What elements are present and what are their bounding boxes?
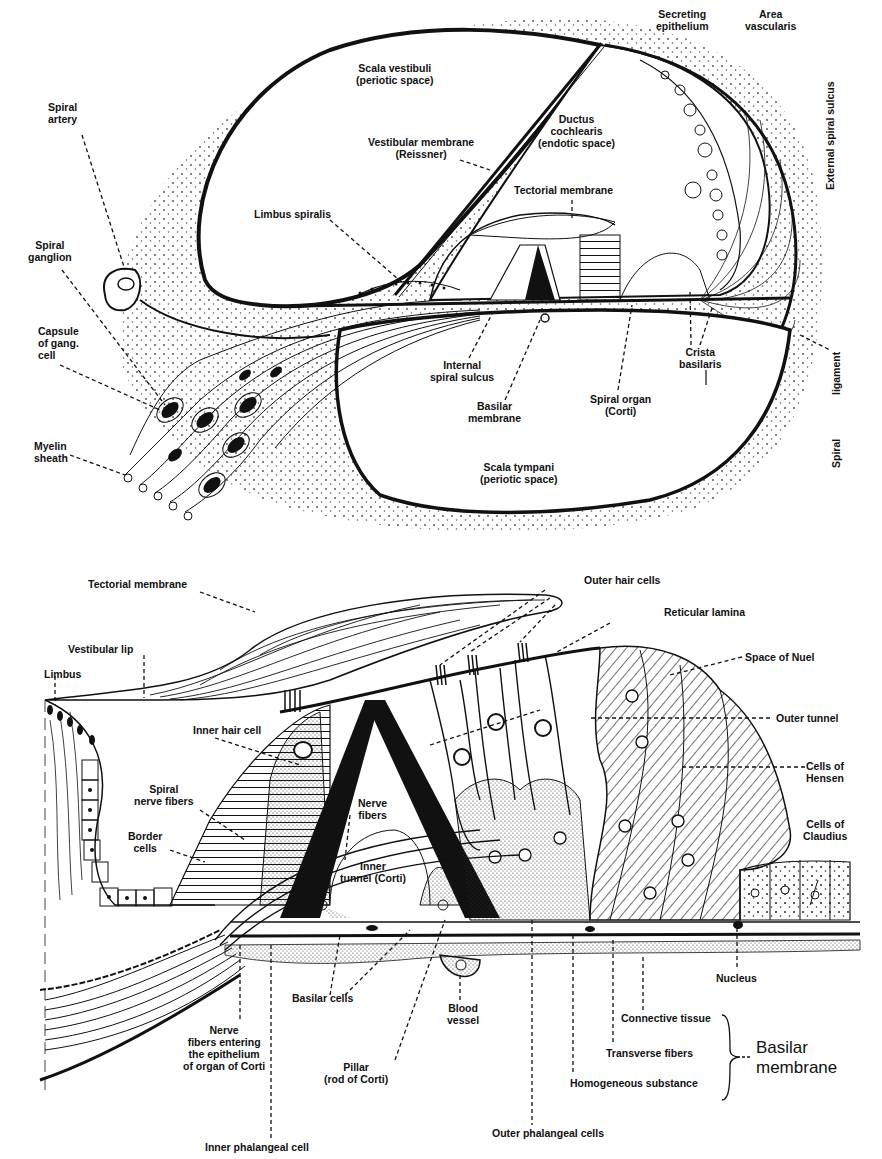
label-limbus-spiralis: Limbus spiralis (254, 208, 331, 220)
label-cells-of-hensen: Cells of Hensen (806, 760, 844, 784)
label-nerve-fibers: Nerve fibers (358, 797, 387, 821)
label-spiral-artery: Spiral artery (48, 101, 77, 125)
label-spiral-ligament-a: Spiral (830, 439, 842, 468)
label-cells-of-claudius: Cells of Claudius (803, 818, 847, 842)
label-basilar-cells: Basilar cells (292, 992, 353, 1004)
label-basilar-membrane-group: Basilar membrane (756, 1038, 837, 1078)
label-space-of-nuel: Space of Nuel (745, 651, 814, 663)
label-tectorial-membrane-upper: Tectorial membrane (514, 184, 613, 196)
label-inner-phalangeal-cell: Inner phalangeal cell (205, 1141, 309, 1153)
label-ductus-cochlearis: Ductus cochlearis (endotic space) (538, 113, 615, 149)
label-crista-basilaris: Crista basilaris (679, 346, 722, 370)
label-capsule-of-ganglion-cell: Capsule of gang. cell (38, 325, 79, 361)
label-homogeneous-substance: Homogeneous substance (570, 1077, 698, 1089)
label-spiral-ganglion: Spiral ganglion (28, 239, 72, 263)
label-pillar: Pillar (rod of Corti) (324, 1061, 388, 1085)
label-external-spiral-sulcus: External spiral sulcus (824, 81, 836, 190)
label-scala-vestibuli: Scala vestibuli (periotic space) (356, 62, 434, 86)
label-myelin-sheath: Myelin sheath (34, 440, 68, 464)
label-inner-tunnel: Inner tunnel (Corti) (340, 860, 406, 884)
label-blood-vessel: Blood vessel (447, 1002, 479, 1026)
label-nerve-fibers-entering: Nerve fibers entering the epithelium of … (183, 1024, 265, 1072)
label-nucleus: Nucleus (716, 972, 757, 984)
label-vestibular-membrane: Vestibular membrane (Reissner) (368, 136, 474, 160)
label-outer-tunnel: Outer tunnel (776, 712, 838, 724)
lower-panel (40, 590, 860, 1140)
upper-panel (60, 18, 830, 532)
label-reticular-lamina: Reticular lamina (664, 606, 745, 618)
label-spiral-nerve-fibers: Spiral nerve fibers (134, 783, 194, 807)
label-limbus: Limbus (44, 668, 81, 680)
label-secreting-epithelium: Secreting epithelium (656, 8, 709, 32)
label-tectorial-membrane: Tectorial membrane (88, 578, 187, 590)
label-outer-phalangeal-cells: Outer phalangeal cells (492, 1127, 604, 1139)
label-internal-spiral-sulcus: Internal spiral sulcus (430, 359, 494, 383)
label-spiral-ligament-b: ligament (830, 352, 842, 395)
label-transverse-fibers: Transverse fibers (606, 1047, 693, 1059)
label-outer-hair-cells: Outer hair cells (584, 574, 660, 586)
label-vestibular-lip: Vestibular lip (68, 643, 133, 655)
label-basilar-membrane-upper: Basilar membrane (468, 400, 521, 424)
label-spiral-organ: Spiral organ (Corti) (590, 393, 651, 417)
label-inner-hair-cell: Inner hair cell (193, 724, 261, 736)
label-border-cells: Border cells (128, 830, 162, 854)
label-scala-tympani: Scala tympani (periotic space) (480, 461, 558, 485)
label-area-vascularis: Area vascularis (745, 8, 796, 32)
label-connective-tissue: Connective tissue (621, 1012, 711, 1024)
